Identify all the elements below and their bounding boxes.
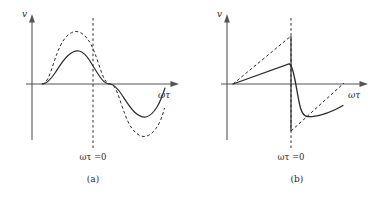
panel-b-caption: (b) <box>291 174 304 184</box>
panel-a-y-axis-label: v <box>22 9 27 19</box>
panel-a: v ωτ ωτ =0 (a) <box>22 9 179 184</box>
panel-b-x-axis <box>221 81 368 87</box>
panel-b-distorted-sawtooth-curve <box>233 64 343 117</box>
figure-container: v ωτ ωτ =0 (a) v <box>0 0 383 198</box>
panel-a-marker-label: ωτ =0 <box>80 152 107 162</box>
panel-a-caption: (a) <box>87 174 99 184</box>
panel-a-y-axis <box>29 14 35 140</box>
panel-b-x-axis-label: ωτ <box>348 90 361 100</box>
panel-a-x-axis <box>26 81 179 87</box>
panel-a-x-axis-label: ωτ <box>158 90 171 100</box>
figure-svg: v ωτ ωτ =0 (a) v <box>0 0 383 198</box>
panel-b-marker-label: ωτ =0 <box>278 152 305 162</box>
panel-b: v ωτ ωτ =0 (b) <box>217 9 368 184</box>
panel-b-y-axis <box>224 14 230 140</box>
panel-b-y-axis-label: v <box>217 9 222 19</box>
